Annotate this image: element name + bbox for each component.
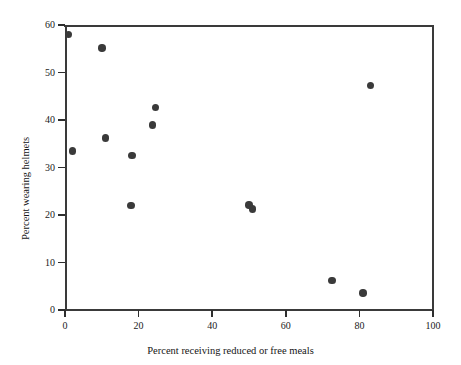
y-tick-20 (58, 214, 65, 216)
data-point (128, 152, 136, 160)
x-tick-label-60: 60 (271, 320, 301, 331)
x-tick-80 (359, 310, 361, 317)
y-tick-10 (58, 262, 65, 264)
data-point (249, 205, 257, 213)
data-point (127, 202, 135, 210)
x-tick-40 (211, 310, 213, 317)
x-tick-label-100: 100 (418, 320, 448, 331)
x-tick-60 (285, 310, 287, 317)
y-tick-label-30: 30 (33, 162, 55, 173)
y-tick-40 (58, 119, 65, 121)
data-point (367, 82, 375, 90)
x-tick-100 (432, 310, 434, 317)
data-point (102, 134, 110, 142)
x-tick-0 (64, 310, 66, 317)
y-axis-title: Percent wearing helmets (20, 137, 31, 240)
y-tick-label-0: 0 (33, 304, 55, 315)
data-point (69, 147, 77, 155)
data-point (328, 277, 336, 285)
data-point (65, 31, 73, 39)
data-point (152, 104, 160, 112)
y-tick-label-10: 10 (33, 257, 55, 268)
data-points-layer (65, 25, 433, 310)
data-point (149, 121, 157, 129)
x-tick-label-0: 0 (50, 320, 80, 331)
x-axis-title: Percent receiving reduced or free meals (0, 345, 461, 356)
y-tick-label-20: 20 (33, 209, 55, 220)
scatter-plot-figure: 0102030405060 020406080100 Percent recei… (0, 0, 461, 365)
y-tick-30 (58, 167, 65, 169)
x-tick-20 (138, 310, 140, 317)
x-tick-label-80: 80 (344, 320, 374, 331)
y-tick-label-40: 40 (33, 114, 55, 125)
data-point (98, 44, 106, 52)
y-tick-label-50: 50 (33, 67, 55, 78)
data-point (359, 289, 367, 297)
y-tick-label-60: 60 (33, 19, 55, 30)
y-tick-60 (58, 24, 65, 26)
x-tick-label-40: 40 (197, 320, 227, 331)
y-tick-50 (58, 72, 65, 74)
x-tick-label-20: 20 (124, 320, 154, 331)
